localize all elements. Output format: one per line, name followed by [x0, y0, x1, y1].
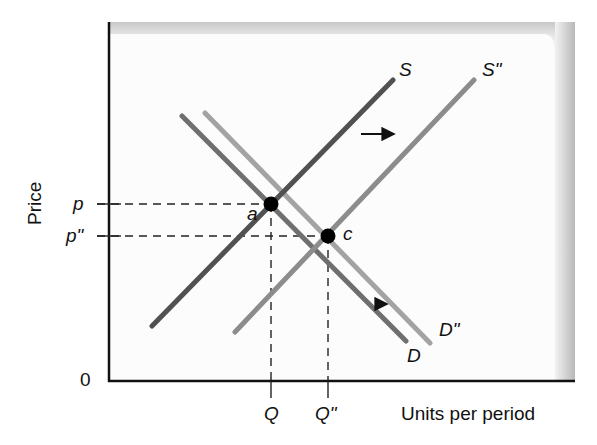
quantity-label-q: Q — [264, 404, 279, 423]
demand-label-d2: D" — [439, 320, 459, 339]
supply-label-s: S — [399, 60, 412, 79]
demand-label-d: D — [407, 346, 421, 365]
supply-label-s2: S" — [482, 60, 501, 79]
demand-curve-d2 — [205, 113, 430, 343]
quantity-label-q2: Q" — [315, 404, 337, 423]
equilibrium-point-c — [321, 229, 336, 244]
point-label-c: c — [343, 224, 353, 243]
demand-curve-d — [182, 116, 406, 341]
equilibrium-point-a — [264, 197, 279, 212]
y-axis-label: Price — [24, 182, 46, 225]
price-label-p: p — [73, 194, 84, 213]
point-label-a: a — [247, 204, 258, 223]
x-axis-label: Units per period — [401, 404, 535, 423]
origin-label: 0 — [80, 370, 91, 389]
price-label-p2: p" — [66, 226, 83, 245]
